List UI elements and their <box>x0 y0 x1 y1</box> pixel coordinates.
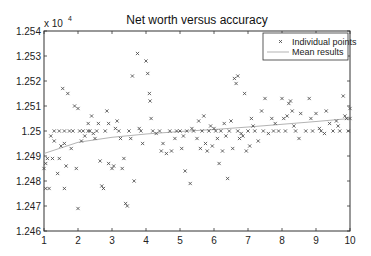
x-tick-label: 3 <box>109 235 115 246</box>
x-tick-label: 4 <box>143 235 149 246</box>
y-tick-label: 1.254 <box>16 26 41 37</box>
y-tick-label: 1.248 <box>16 176 41 187</box>
chart-title: Net worth versus accuracy <box>126 13 267 27</box>
y-tick-label: 1.246 <box>16 226 41 237</box>
chart-figure: Net worth versus accuracy x 10 4 1234567… <box>0 0 371 256</box>
x-tick-label: 7 <box>245 235 251 246</box>
legend: Individual points Mean results <box>263 33 357 60</box>
y-tick-label: 1.25 <box>22 126 42 137</box>
y-multiplier-label: x 10 <box>44 18 63 29</box>
y-tick-label: 1.247 <box>16 201 41 212</box>
x-tick-label: 8 <box>279 235 285 246</box>
legend-label-mean-results: Mean results <box>292 47 344 57</box>
y-tick-label: 1.249 <box>16 151 41 162</box>
y-multiplier-exponent: 4 <box>68 15 72 22</box>
x-tick-label: 6 <box>211 235 217 246</box>
y-multiplier: x 10 4 <box>44 15 72 29</box>
x-tick-label: 9 <box>313 235 319 246</box>
x-tick-label: 2 <box>75 235 81 246</box>
y-tick-label: 1.251 <box>16 101 41 112</box>
x-tick-label: 1 <box>41 235 47 246</box>
x-tick-label: 10 <box>344 235 356 246</box>
legend-label-individual-points: Individual points <box>292 37 357 47</box>
x-tick-label: 5 <box>177 235 183 246</box>
y-tick-label: 1.252 <box>16 76 41 87</box>
y-tick-label: 1.253 <box>16 51 41 62</box>
